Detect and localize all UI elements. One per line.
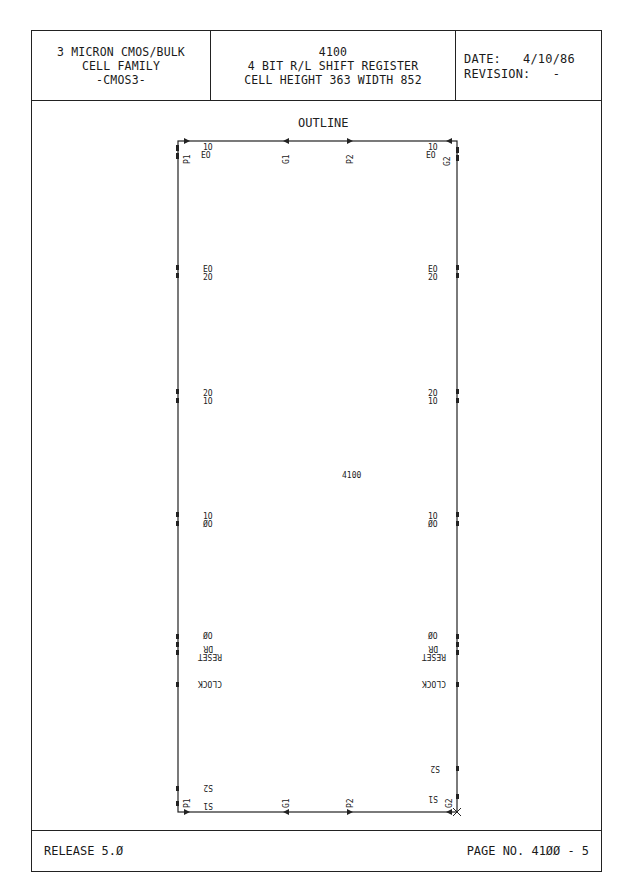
signal-left: EO [201, 151, 211, 160]
svg-text:ØO: ØO [428, 631, 438, 641]
side-pin-markers [176, 265, 459, 806]
arrow-icon [184, 138, 190, 144]
svg-text:S1: S1 [203, 801, 213, 810]
top-pin-labels: P1 G1 P2 G2 1O EO 1O EO [183, 143, 452, 166]
svg-text:G1: G1 [282, 798, 291, 808]
pin-label-p1: P1 [183, 154, 192, 164]
pin-marker-icon [176, 153, 179, 159]
cell-outline-box [178, 141, 457, 812]
svg-text:P2: P2 [346, 798, 355, 808]
bottom-pin-labels: P1 G1 P2 G2 [183, 798, 454, 808]
svg-text:1O: 1O [203, 397, 213, 406]
signal-right: EO [426, 151, 436, 160]
svg-text:DR: DR [203, 644, 213, 653]
pin-marker-icon [456, 155, 459, 161]
svg-text:1O: 1O [428, 397, 438, 406]
svg-text:ØO: ØO [428, 519, 438, 529]
svg-text:2O: 2O [203, 273, 213, 282]
arrow-icon [446, 138, 452, 144]
svg-text:RESET: RESET [198, 652, 222, 661]
pin-label-g2: G2 [443, 156, 452, 166]
svg-text:G2: G2 [445, 798, 454, 808]
svg-text:RESET: RESET [422, 652, 446, 661]
svg-text:S2: S2 [430, 764, 440, 773]
svg-text:DR: DR [428, 644, 438, 653]
pin-marker-icon [176, 145, 179, 151]
cell-center-label: 4100 [342, 471, 361, 480]
svg-text:2O: 2O [428, 273, 438, 282]
svg-text:P1: P1 [183, 798, 192, 808]
svg-text:ØO: ØO [203, 631, 213, 641]
pin-label-g1: G1 [282, 154, 291, 164]
pin-label-p2: P2 [346, 154, 355, 164]
arrow-icon [283, 138, 289, 144]
arrow-icon [347, 138, 353, 144]
outline-drawing: OUTLINE P1 G1 P2 G2 1O EO 1O EO [0, 0, 630, 891]
svg-text:S2: S2 [203, 783, 213, 792]
right-side-labels: EO 2O 2O 1O 1O ØO ØO DR RESET CLOCK S2 S… [422, 265, 446, 803]
svg-text:CLOCK: CLOCK [422, 679, 446, 688]
svg-text:ØO: ØO [203, 519, 213, 529]
left-side-labels: EO 2O 2O 1O 1O ØO ØO DR RESET CLOCK S2 S… [198, 265, 222, 810]
svg-text:CLOCK: CLOCK [198, 679, 222, 688]
pin-marker-icon [456, 147, 459, 153]
drawing-title: OUTLINE [298, 116, 349, 130]
svg-text:S1: S1 [428, 794, 438, 803]
